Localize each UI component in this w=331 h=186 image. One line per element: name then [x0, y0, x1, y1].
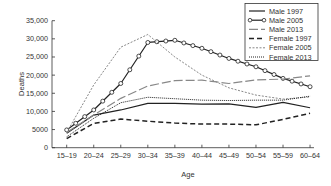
circle-marker-icon — [308, 85, 312, 89]
series-female-1997 — [67, 113, 310, 138]
x-tick-label: 30–34 — [138, 151, 158, 160]
y-tick-label: 20,000 — [26, 71, 48, 80]
legend-label: Female 1997 — [269, 34, 312, 43]
circle-marker-icon — [146, 40, 150, 44]
circle-marker-icon — [227, 56, 231, 60]
circle-marker-icon — [299, 82, 303, 86]
circle-marker-icon — [92, 108, 96, 112]
circle-marker-icon — [263, 69, 267, 73]
circle-marker-icon — [272, 73, 276, 77]
y-axis: 0500010,00015,00020,00025,00030,00035,00… — [26, 16, 55, 152]
y-tick-label: 15,000 — [26, 89, 48, 98]
legend: Male 1997Male 2005Male 2013Female 1997Fe… — [245, 4, 318, 62]
x-axis: 15–1920–2425–2930–3435–3940–4445–4950–54… — [52, 145, 320, 160]
circle-marker-icon — [173, 38, 177, 42]
circle-marker-icon — [101, 99, 105, 103]
circle-marker-icon — [110, 90, 114, 94]
y-tick-label: 30,000 — [26, 34, 48, 43]
x-tick-label: 20–24 — [84, 151, 104, 160]
y-tick-label: 35,000 — [26, 16, 48, 25]
legend-label: Male 1997 — [269, 7, 303, 16]
circle-marker-icon — [290, 79, 294, 83]
legend-label: Female 2005 — [269, 43, 312, 52]
y-tick-label: 5000 — [32, 125, 48, 134]
circle-marker-icon — [74, 121, 78, 125]
x-tick-label: 40–44 — [192, 151, 212, 160]
legend-label: Male 2005 — [269, 16, 303, 25]
legend-label: Female 2013 — [269, 53, 312, 62]
circle-marker-icon — [236, 59, 240, 63]
x-tick-label: 45–49 — [219, 151, 239, 160]
circle-marker-icon — [209, 50, 213, 54]
series-male-1997 — [67, 102, 310, 133]
y-tick-label: 25,000 — [26, 52, 48, 61]
circle-marker-icon — [128, 68, 132, 72]
circle-marker-icon — [164, 39, 168, 43]
circle-marker-icon — [218, 53, 222, 57]
legend-label: Male 2013 — [269, 25, 303, 34]
x-tick-label: 15–19 — [57, 151, 77, 160]
circle-marker-icon — [137, 54, 141, 58]
x-tick-label: 55–59 — [273, 151, 293, 160]
y-tick-label: 0 — [44, 143, 48, 152]
x-axis-title: Age — [181, 170, 194, 179]
circle-marker-icon — [245, 62, 249, 66]
y-tick-label: 10,000 — [26, 107, 48, 116]
x-tick-label: 60–64 — [300, 151, 320, 160]
x-tick-label: 35–39 — [165, 151, 185, 160]
x-tick-label: 50–54 — [246, 151, 266, 160]
circle-marker-icon — [191, 44, 195, 48]
circle-marker-icon — [119, 81, 123, 85]
line-chart: 0500010,00015,00020,00025,00030,00035,00… — [0, 0, 331, 186]
y-axis-title: Deaths — [17, 72, 26, 96]
circle-marker-icon — [182, 41, 186, 45]
circle-marker-icon — [83, 115, 87, 119]
circle-marker-icon — [200, 46, 204, 50]
circle-marker-icon — [254, 65, 258, 69]
x-tick-label: 25–29 — [111, 151, 131, 160]
